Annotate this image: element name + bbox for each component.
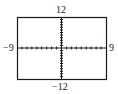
x-min-label: −9 <box>3 43 14 53</box>
y-max-label: 12 <box>56 5 66 15</box>
y-min-label: −12 <box>52 82 68 92</box>
x-max-label: 9 <box>109 43 114 53</box>
